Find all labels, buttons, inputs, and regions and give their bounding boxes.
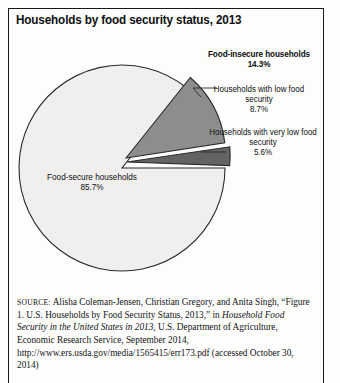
source-url: http://www.ers.usda.gov/media/1565415/er…: [17, 348, 210, 358]
label-very-low-food-security-title: Households with very low food security: [209, 127, 316, 147]
label-low-food-security: Households with low food security 8.7%: [199, 85, 319, 115]
source-authors: Alisha Coleman-Jensen, Christian Gregory…: [51, 297, 279, 307]
label-food-secure-title: Food-secure households: [47, 172, 137, 182]
source-label: SOURCE:: [17, 298, 51, 307]
label-food-insecure-title: Food-insecure households: [208, 49, 310, 59]
figure-container: Households by food security status, 2013…: [0, 0, 340, 383]
pie-chart: Food-insecure households 14.3% Household…: [0, 0, 340, 290]
label-food-secure-value: 85.7%: [20, 182, 164, 192]
label-very-low-food-security: Households with very low food security 5…: [207, 128, 319, 158]
label-food-secure: Food-secure households 85.7%: [20, 172, 164, 192]
label-food-insecure-value: 14.3%: [190, 59, 329, 69]
label-low-food-security-value: 8.7%: [199, 105, 319, 115]
source-note-text: SOURCE: Alisha Coleman-Jensen, Christian…: [17, 296, 317, 372]
label-very-low-food-security-value: 5.6%: [207, 148, 319, 158]
label-food-insecure: Food-insecure households 14.3%: [190, 49, 329, 69]
source-note: SOURCE: Alisha Coleman-Jensen, Christian…: [17, 296, 317, 372]
label-low-food-security-title: Households with low food security: [214, 84, 304, 104]
